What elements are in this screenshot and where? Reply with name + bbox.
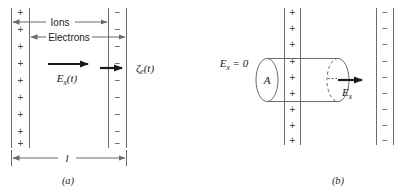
charge-symbol: −	[115, 138, 121, 149]
panel-b-positive-plate: + + + + + + + + +	[285, 7, 301, 146]
charge-symbol: −	[115, 109, 121, 120]
panel-a-caption: (a)	[62, 175, 75, 187]
zero-field-value: = 0	[230, 57, 249, 69]
charge-symbol: +	[18, 24, 24, 35]
cylinder-axis-dots: ⋯	[327, 73, 338, 85]
length-dimension-group: l	[12, 150, 127, 166]
charge-symbol: +	[290, 56, 296, 67]
displacement-label: ζe(t)	[136, 62, 155, 77]
charge-symbol: −	[115, 41, 121, 52]
charge-symbol: +	[290, 72, 296, 83]
figure-canvas: + + + + + + + + + − − −	[0, 0, 404, 190]
charge-symbol: +	[290, 88, 296, 99]
negative-charge-column: − − − − − − − − −	[382, 7, 388, 146]
panel-b-negative-plate: − − − − − − − − −	[377, 7, 394, 146]
charge-symbol: −	[382, 135, 388, 146]
field-arrow-label: Ex(t)	[56, 72, 78, 87]
exit-field-arrow-group: Ex	[338, 80, 362, 101]
charge-symbol: −	[382, 56, 388, 67]
charge-symbol: +	[18, 58, 24, 69]
ions-arrow-group: Ions	[13, 17, 107, 28]
charge-symbol: +	[18, 7, 24, 18]
charge-symbol: −	[115, 24, 121, 35]
exit-field-label: Ex	[341, 86, 353, 101]
charge-symbol: −	[382, 7, 388, 18]
charge-symbol: −	[115, 75, 121, 86]
charge-symbol: +	[290, 7, 296, 18]
negative-charge-column: − − − − − − − − −	[115, 7, 121, 149]
charge-symbol: −	[382, 104, 388, 115]
charge-symbol: −	[382, 23, 388, 34]
charge-symbol: −	[382, 88, 388, 99]
gaussian-surface-cylinder: A ⋯	[256, 59, 349, 102]
charge-symbol: −	[115, 92, 121, 103]
charge-symbol: +	[290, 39, 296, 50]
charge-symbol: −	[382, 39, 388, 50]
charge-symbol: −	[382, 72, 388, 83]
charge-symbol: +	[18, 75, 24, 86]
length-label: l	[65, 152, 68, 164]
charge-symbol: −	[115, 126, 121, 137]
panel-a-positive-plate: + + + + + + + + +	[12, 7, 30, 149]
zero-field-label: Ex = 0	[219, 57, 249, 72]
positive-charge-column: + + + + + + + + +	[290, 7, 296, 146]
cylinder-area-label: A	[263, 74, 271, 86]
charge-symbol: −	[115, 7, 121, 18]
panel-b-caption: (b)	[332, 175, 345, 187]
zeta-time-arg: (t)	[144, 62, 155, 75]
charge-symbol: −	[382, 120, 388, 131]
electrons-label: Electrons	[48, 32, 90, 43]
charge-symbol: +	[18, 41, 24, 52]
physics-figure: + + + + + + + + + − − −	[0, 0, 404, 190]
electrons-arrow-group: Electrons	[31, 32, 125, 43]
field-time-arg: (t)	[67, 72, 78, 85]
positive-charge-column: + + + + + + + + +	[18, 7, 24, 149]
charge-symbol: +	[290, 23, 296, 34]
charge-symbol: +	[290, 135, 296, 146]
panel-a: + + + + + + + + + − − −	[12, 7, 155, 187]
ions-label: Ions	[51, 17, 70, 28]
field-arrow-group: Ex(t)	[48, 64, 88, 87]
charge-symbol: +	[18, 109, 24, 120]
panel-b: + + + + + + + + + − − −	[219, 7, 394, 187]
charge-symbol: +	[18, 138, 24, 149]
exit-field-subscript: x	[348, 92, 353, 101]
panel-a-negative-plate: − − − − − − − − −	[109, 7, 127, 149]
charge-symbol: +	[18, 92, 24, 103]
charge-symbol: +	[290, 120, 296, 131]
charge-symbol: +	[290, 104, 296, 115]
charge-symbol: +	[18, 126, 24, 137]
